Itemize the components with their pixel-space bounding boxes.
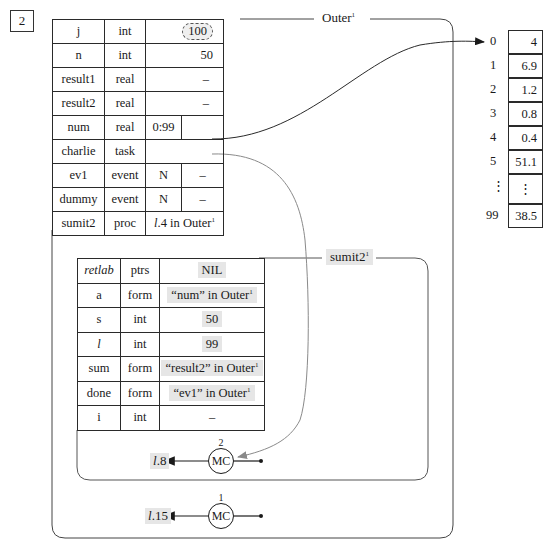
var-name: done: [78, 381, 121, 406]
array-cell: 1.2: [508, 78, 543, 102]
table-row: result1 real –: [53, 68, 224, 92]
var-name: charlie: [53, 140, 105, 164]
var-value: 100: [146, 20, 224, 44]
array-range: 0:99: [146, 116, 182, 140]
table-row: l int 99: [78, 332, 265, 357]
table-row: sumit2 proc l.4 in Outer1: [53, 212, 224, 236]
array-cell-ellipsis: ⋮: [508, 174, 543, 204]
var-type: form: [121, 357, 160, 382]
inner-frame-title: sumit21: [326, 249, 373, 265]
var-type: task: [105, 140, 146, 164]
var-value: –: [182, 164, 224, 188]
array-cell: 38.5: [508, 204, 543, 228]
var-value: –: [146, 68, 224, 92]
changed-value-cloud: 100: [182, 23, 213, 40]
mc-count: 1: [216, 492, 226, 503]
var-name: dummy: [53, 188, 105, 212]
var-value: 99: [160, 332, 265, 357]
var-value: NIL: [160, 259, 265, 284]
task-pointer-cell: [146, 140, 224, 164]
var-value: –: [146, 92, 224, 116]
var-name: j: [53, 20, 105, 44]
table-row: ev1 event N –: [53, 164, 224, 188]
var-type: real: [105, 116, 146, 140]
table-row: a form “num” in Outer1: [78, 283, 265, 308]
array-index: 0: [490, 34, 510, 49]
array-index: 99: [486, 208, 506, 223]
proc-location: l.4 in Outer1: [146, 212, 224, 236]
array-pointer-cell: [182, 116, 224, 140]
var-type: form: [121, 381, 160, 406]
var-type: int: [121, 308, 160, 333]
var-type: int: [121, 332, 160, 357]
var-name: s: [78, 308, 121, 333]
var-name: l: [78, 332, 121, 357]
var-type: int: [105, 44, 146, 68]
outer-symbol-table: j int 100 n int 50 result1 real – result…: [52, 19, 224, 236]
var-value: “result2” in Outer1: [160, 357, 265, 382]
var-name: num: [53, 116, 105, 140]
outer-title-sup: 1: [352, 11, 356, 19]
array-cell: 6.9: [508, 54, 543, 78]
var-type: int: [105, 20, 146, 44]
var-type: proc: [105, 212, 146, 236]
var-name: ev1: [53, 164, 105, 188]
table-row: result2 real –: [53, 92, 224, 116]
table-row: s int 50: [78, 308, 265, 333]
var-name: a: [78, 283, 121, 308]
pointer-num-to-array: [212, 41, 484, 139]
table-row: sum form “result2” in Outer1: [78, 357, 265, 382]
var-type: real: [105, 92, 146, 116]
array-cell: 4: [508, 30, 543, 54]
var-name: result1: [53, 68, 105, 92]
outer-frame-title: Outer1: [318, 10, 359, 26]
var-name: sum: [78, 357, 121, 382]
sumit2-symbol-table: retlab ptrs NIL a form “num” in Outer1 s…: [77, 258, 265, 431]
return-label: l.15: [145, 508, 171, 524]
var-name: result2: [53, 92, 105, 116]
var-type: form: [121, 283, 160, 308]
event-flag: N: [146, 164, 182, 188]
mc-node: MC: [208, 503, 234, 529]
var-value: –: [182, 188, 224, 212]
mc-node: MC: [208, 448, 234, 474]
var-name: n: [53, 44, 105, 68]
var-value: 50: [146, 44, 224, 68]
inner-title-text: sumit2: [330, 249, 365, 264]
return-label: l.8: [150, 453, 169, 469]
table-row: num real 0:99: [53, 116, 224, 140]
array-index: 2: [490, 82, 510, 97]
array-cell: 51.1: [508, 150, 543, 174]
var-name: sumit2: [53, 212, 105, 236]
array-index: 4: [490, 130, 510, 145]
table-row: i int –: [78, 406, 265, 431]
var-type: event: [105, 188, 146, 212]
array-cell: 0.8: [508, 102, 543, 126]
var-value: 50: [160, 308, 265, 333]
inner-title-sup: 1: [365, 250, 369, 258]
var-type: event: [105, 164, 146, 188]
table-row: charlie task: [53, 140, 224, 164]
var-value: “num” in Outer1: [160, 283, 265, 308]
table-row: n int 50: [53, 44, 224, 68]
var-value: “ev1” in Outer1: [160, 381, 265, 406]
table-row: j int 100: [53, 20, 224, 44]
outer-title-text: Outer: [322, 10, 352, 25]
event-flag: N: [146, 188, 182, 212]
var-type: ptrs: [121, 259, 160, 284]
mc-count: 2: [216, 437, 226, 448]
var-name: retlab: [78, 259, 121, 284]
array-cell: 0.4: [508, 126, 543, 150]
array-index: 3: [490, 106, 510, 121]
var-type: int: [121, 406, 160, 431]
var-value: –: [160, 406, 265, 431]
var-type: real: [105, 68, 146, 92]
array-index: 5: [490, 154, 510, 169]
var-name: i: [78, 406, 121, 431]
table-row: retlab ptrs NIL: [78, 259, 265, 284]
array-index: 1: [490, 58, 510, 73]
frame-number: 2: [10, 10, 34, 32]
table-row: done form “ev1” in Outer1: [78, 381, 265, 406]
table-row: dummy event N –: [53, 188, 224, 212]
